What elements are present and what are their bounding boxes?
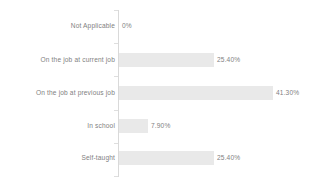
bar-row: Not Applicable0% bbox=[0, 19, 317, 33]
plot-area: Not Applicable0%On the job at current jo… bbox=[0, 0, 317, 186]
category-label: Self-taught bbox=[81, 151, 115, 165]
axis-tick-4 bbox=[114, 143, 118, 144]
category-label: Not Applicable bbox=[71, 19, 115, 33]
value-label: 41.30% bbox=[276, 86, 299, 100]
value-label: 25.40% bbox=[217, 151, 240, 165]
bar[interactable] bbox=[119, 119, 148, 133]
category-label: On the job at previous job bbox=[36, 86, 115, 100]
bar-row: On the job at previous job41.30% bbox=[0, 86, 317, 100]
value-label: 7.90% bbox=[151, 119, 170, 133]
axis-tick-1 bbox=[114, 43, 118, 44]
bar[interactable] bbox=[119, 86, 273, 100]
bar[interactable] bbox=[119, 151, 214, 165]
axis-tick-2 bbox=[114, 76, 118, 77]
bar-row: Self-taught25.40% bbox=[0, 151, 317, 165]
bar-row: On the job at current job25.40% bbox=[0, 53, 317, 67]
axis-tick-0 bbox=[114, 10, 118, 11]
value-label: 0% bbox=[122, 19, 132, 33]
bar-chart: Not Applicable0%On the job at current jo… bbox=[0, 0, 317, 186]
bar-row: In school7.90% bbox=[0, 119, 317, 133]
category-label: In school bbox=[87, 119, 115, 133]
bar[interactable] bbox=[119, 53, 214, 67]
axis-tick-5 bbox=[114, 176, 118, 177]
category-label: On the job at current job bbox=[41, 53, 116, 67]
axis-tick-3 bbox=[114, 110, 118, 111]
value-label: 25.40% bbox=[217, 53, 240, 67]
